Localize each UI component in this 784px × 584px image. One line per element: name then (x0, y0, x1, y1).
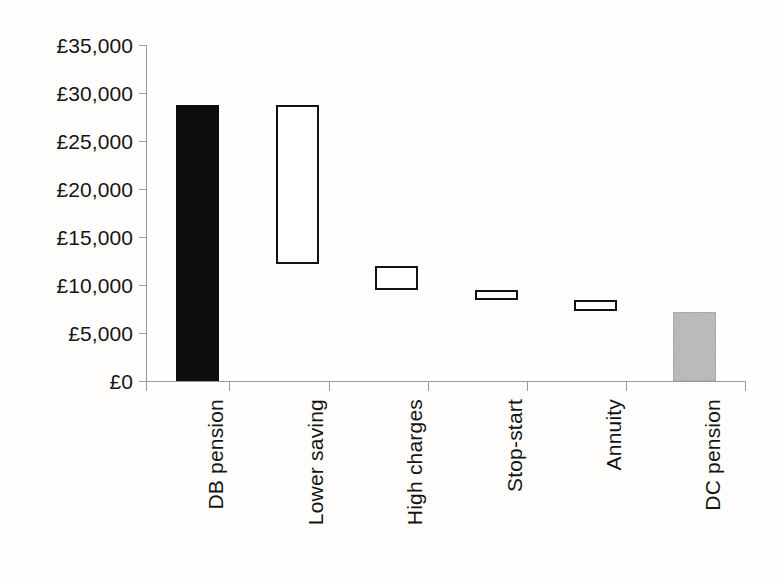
bar-db-pension[interactable] (176, 105, 219, 381)
y-axis-tick-label: £0 (109, 371, 133, 392)
bar-dc-pension[interactable] (673, 312, 716, 381)
x-axis-tick-mark (527, 382, 528, 391)
x-axis-tick-mark (329, 382, 330, 391)
y-axis-tick-label: £15,000 (56, 227, 133, 248)
y-axis-tick-mark (139, 45, 147, 46)
x-axis-tick-mark (428, 382, 429, 391)
x-axis-category-label: DC pension (702, 399, 723, 511)
x-axis-category-label: Lower saving (305, 399, 326, 525)
x-axis-tick-mark (229, 382, 230, 391)
x-axis-category-label: High charges (404, 399, 425, 525)
y-axis-tick-label: £35,000 (56, 35, 133, 56)
x-axis-tick-mark (745, 382, 746, 391)
y-axis-tick-label: £30,000 (56, 83, 133, 104)
y-axis-tick-label: £25,000 (56, 131, 133, 152)
waterfall-chart: £35,000£30,000£25,000£20,000£15,000£10,0… (0, 0, 784, 584)
x-axis-line (146, 381, 746, 382)
y-axis-tick-mark (139, 285, 147, 286)
y-axis-tick-label: £20,000 (56, 179, 133, 200)
y-axis-tick-label: £10,000 (56, 275, 133, 296)
x-axis-category-label: Annuity (603, 399, 624, 470)
x-axis-category-label: Stop-start (504, 399, 525, 492)
bar-annuity[interactable] (574, 300, 617, 311)
y-axis-tick-label: £5,000 (68, 323, 133, 344)
x-axis-category-label: DB pension (205, 399, 226, 510)
y-axis-tick-mark (139, 237, 147, 238)
bar-stop-start[interactable] (475, 290, 518, 301)
x-axis-tick-mark (626, 382, 627, 391)
bar-lower-saving[interactable] (276, 105, 319, 264)
x-axis-tick-mark (146, 382, 147, 391)
y-axis-tick-mark (139, 141, 147, 142)
y-axis-line (146, 45, 147, 382)
bar-high-charges[interactable] (375, 266, 418, 290)
y-axis-tick-mark (139, 93, 147, 94)
y-axis-tick-mark (139, 333, 147, 334)
y-axis-tick-mark (139, 189, 147, 190)
y-axis-label-group: £35,000£30,000£25,000£20,000£15,000£10,0… (0, 0, 133, 584)
